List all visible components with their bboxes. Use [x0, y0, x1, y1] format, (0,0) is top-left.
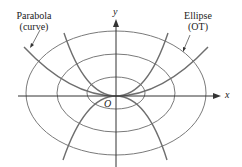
parabola-up-wide-right	[116, 47, 208, 96]
parabola-leader-arrow-icon	[30, 43, 34, 48]
origin-label: O	[104, 98, 111, 109]
parabola-up-wide-left	[24, 47, 116, 96]
axes	[18, 19, 221, 167]
ellipse-label-line1: Ellipse	[178, 10, 218, 21]
ellipse-label: Ellipse (OT)	[178, 10, 218, 32]
x-axis-arrow-icon	[213, 93, 221, 99]
parabola-leader	[32, 30, 40, 45]
y-axis-arrow-icon	[113, 19, 119, 27]
y-axis-label: y	[113, 6, 117, 17]
parabola-label: Parabola (curve)	[16, 10, 52, 32]
parabola-label-line1: Parabola	[16, 10, 52, 21]
parabola-label-line2: (curve)	[16, 21, 52, 32]
ellipse-leader-arrow-icon	[183, 47, 186, 52]
ellipse-leader	[184, 35, 190, 49]
ellipse-label-line2: (OT)	[178, 21, 218, 32]
x-axis-label: x	[225, 89, 229, 100]
